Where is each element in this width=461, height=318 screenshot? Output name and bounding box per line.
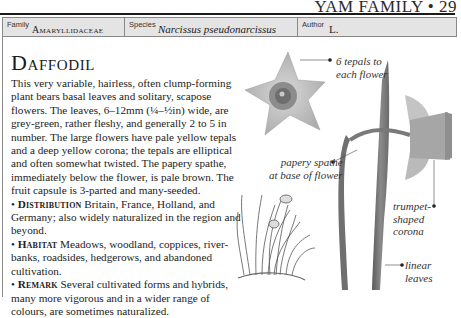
- callout-tepals: 6 tepals to each flower: [336, 55, 388, 80]
- callout-leaves: linear leaves: [405, 259, 432, 284]
- clump-sketch-icon: [237, 195, 315, 280]
- front-flower-icon: [245, 52, 325, 135]
- callout-spathe: papery spathe at base of flower: [269, 156, 343, 181]
- side-flower-icon: [350, 95, 452, 180]
- leaf-stem-icon: [372, 60, 389, 290]
- callout-corona: trumpet- shaped corona: [393, 200, 455, 238]
